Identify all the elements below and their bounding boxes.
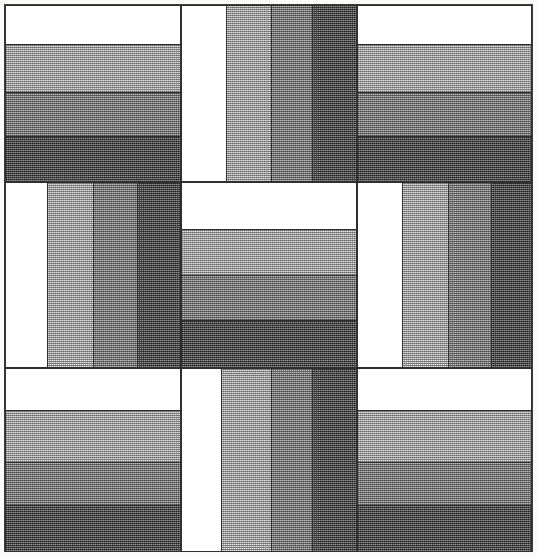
strip-white xyxy=(181,182,357,230)
strip-light xyxy=(5,411,181,463)
unit-bottom-right xyxy=(357,368,532,552)
quilt-block-canvas xyxy=(0,0,537,557)
unit-middle-right xyxy=(357,182,532,368)
strip-medium xyxy=(357,93,532,137)
strip-dark xyxy=(138,182,181,368)
strip-medium xyxy=(5,463,181,506)
strip-dark xyxy=(5,506,181,552)
unit-bottom-left xyxy=(5,368,181,552)
strip-medium xyxy=(449,182,492,368)
strip-medium xyxy=(272,368,313,552)
strip-white xyxy=(181,368,222,552)
strip-dark xyxy=(357,137,532,182)
strip-light xyxy=(181,230,357,276)
strip-dark xyxy=(357,506,532,552)
unit-bottom-center xyxy=(181,368,357,552)
strip-medium xyxy=(272,5,313,182)
strip-white xyxy=(357,5,532,45)
strip-light xyxy=(357,45,532,93)
strip-medium xyxy=(94,182,138,368)
strip-white xyxy=(5,368,181,411)
strip-dark xyxy=(313,368,357,552)
strip-white xyxy=(357,182,403,368)
strip-medium xyxy=(181,276,357,321)
strip-light xyxy=(403,182,449,368)
unit-middle-center xyxy=(181,182,357,368)
strip-light xyxy=(222,368,272,552)
unit-top-center xyxy=(181,5,357,182)
strip-light xyxy=(48,182,94,368)
unit-top-left xyxy=(5,5,181,182)
strip-dark xyxy=(492,182,532,368)
strip-medium xyxy=(357,463,532,506)
strip-white xyxy=(357,368,532,411)
unit-top-right xyxy=(357,5,532,182)
strip-dark xyxy=(313,5,357,182)
strip-dark xyxy=(5,137,181,182)
unit-middle-left xyxy=(5,182,181,368)
strip-white xyxy=(181,5,227,182)
strip-light xyxy=(227,5,272,182)
strip-white xyxy=(5,5,181,45)
strip-dark xyxy=(181,321,357,368)
strip-light xyxy=(5,45,181,93)
strip-light xyxy=(357,411,532,463)
strip-medium xyxy=(5,93,181,137)
strip-white xyxy=(5,182,48,368)
